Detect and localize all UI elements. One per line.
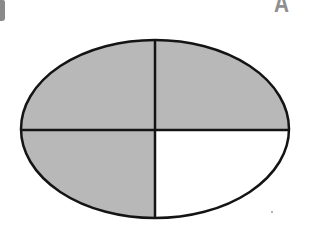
- fraction-ellipse-diagram: [0, 0, 319, 246]
- quadrant-top-right: [155, 0, 319, 130]
- quadrant-bottom-right: [155, 130, 319, 246]
- scan-speck: [271, 211, 273, 213]
